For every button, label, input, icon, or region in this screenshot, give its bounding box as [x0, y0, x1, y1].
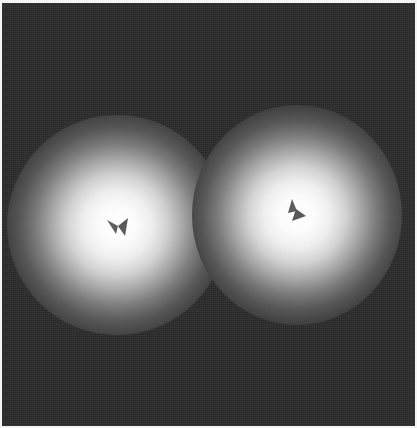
dark-background [2, 3, 415, 426]
image-frame [0, 0, 417, 428]
left-bowtie-mark-icon [107, 218, 129, 236]
right-arrow-mark-icon [286, 199, 306, 223]
